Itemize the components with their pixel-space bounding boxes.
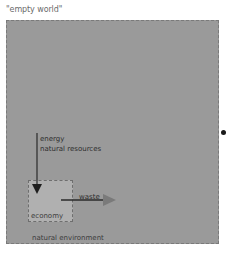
economy-label: economy [31, 212, 63, 220]
natural-resources-label: natural resources [40, 145, 101, 154]
energy-label: energy [40, 135, 64, 144]
waste-label: waste [79, 193, 100, 201]
natural-environment-label: natural environment [32, 234, 104, 242]
